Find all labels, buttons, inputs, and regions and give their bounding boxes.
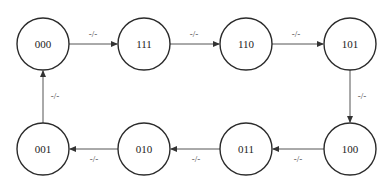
state-diagram: -/- -/- -/- -/- -/- -/- -/- — [0, 0, 390, 188]
states: 000 111 110 101 100 011 010 001 — [17, 18, 376, 175]
state-label: 010 — [136, 143, 153, 155]
transition-101-to-100: -/- — [350, 70, 366, 122]
state-label: 110 — [238, 38, 255, 50]
state-label: 101 — [342, 38, 359, 50]
state-100: 100 — [324, 123, 376, 175]
transition-110-to-101: -/- — [272, 29, 323, 44]
transition-label: -/- — [192, 154, 201, 164]
state-010: 010 — [118, 123, 170, 175]
transition-label: -/- — [190, 29, 199, 39]
transition-011-to-010: -/- — [171, 149, 220, 164]
transition-label: -/- — [294, 154, 303, 164]
transitions: -/- -/- -/- -/- -/- -/- -/- — [43, 29, 366, 164]
transition-100-to-011: -/- — [273, 149, 324, 164]
transition-000-to-111: -/- — [69, 29, 117, 44]
state-label: 001 — [35, 143, 52, 155]
state-label: 011 — [238, 143, 254, 155]
state-110: 110 — [220, 18, 272, 70]
state-label: 111 — [136, 38, 152, 50]
state-label: 000 — [35, 38, 52, 50]
transition-010-to-001: -/- — [70, 149, 118, 164]
state-001: 001 — [17, 123, 69, 175]
state-101: 101 — [324, 18, 376, 70]
transition-label: -/- — [292, 29, 301, 39]
transition-111-to-110: -/- — [170, 29, 219, 44]
transition-label: -/- — [90, 154, 99, 164]
transition-label: -/- — [358, 91, 367, 101]
state-011: 011 — [220, 123, 272, 175]
state-111: 111 — [118, 18, 170, 70]
state-000: 000 — [17, 18, 69, 70]
state-label: 100 — [342, 143, 359, 155]
transition-label: -/- — [51, 91, 60, 101]
transition-label: -/- — [89, 29, 98, 39]
transition-001-to-000: -/- — [43, 71, 59, 123]
